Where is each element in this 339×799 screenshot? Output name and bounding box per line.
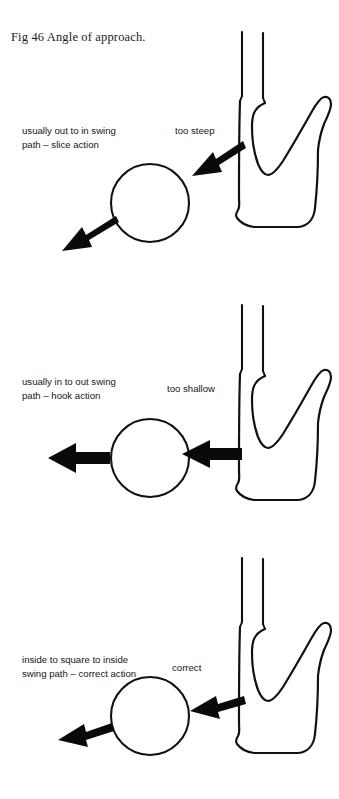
panel-too-steep: usually out to in swing path – slice act… (0, 0, 339, 270)
figure-root: Fig 46 Angle of approach. usually out to… (0, 0, 339, 799)
swing-path-label: inside to square to inside swing path – … (22, 653, 136, 680)
swing-path-label: usually in to out swing path – hook acti… (22, 375, 116, 402)
angle-of-approach-label: too shallow (167, 382, 215, 396)
angle-of-approach-label: correct (172, 661, 201, 675)
golf-ball (111, 164, 189, 242)
ball-flight-arrow (58, 723, 114, 747)
steep-descending-arrow (192, 141, 246, 176)
ball-flight-arrow (48, 443, 110, 473)
golf-ball (111, 677, 189, 755)
swing-path-label: usually out to in swing path – slice act… (22, 124, 116, 151)
club-head-outline (236, 97, 331, 227)
panel-correct: inside to square to inside swing path – … (0, 525, 339, 799)
ball-flight-arrow (62, 216, 119, 251)
angle-of-approach-label: too steep (175, 124, 214, 138)
panel-too-shallow: usually in to out swing path – hook acti… (0, 270, 339, 525)
club-head-outline (236, 370, 331, 500)
shallow-level-arrow (182, 440, 242, 468)
golf-ball (111, 419, 189, 497)
correct-angle-arrow (190, 696, 246, 719)
club-head-outline (236, 623, 331, 753)
